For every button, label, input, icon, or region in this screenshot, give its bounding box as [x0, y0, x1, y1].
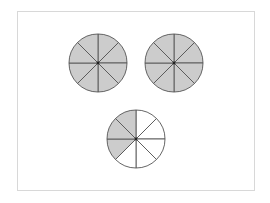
fraction-diagram [0, 0, 270, 203]
center-dot [173, 62, 176, 65]
fraction-circle-3 [107, 110, 165, 168]
fraction-circle-1 [69, 34, 127, 92]
fraction-circle-2 [145, 34, 203, 92]
center-dot [135, 138, 138, 141]
center-dot [97, 62, 100, 65]
